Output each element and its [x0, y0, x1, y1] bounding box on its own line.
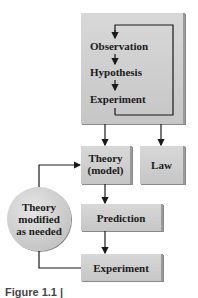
figure-caption: Figure 1.1 | [5, 286, 63, 298]
